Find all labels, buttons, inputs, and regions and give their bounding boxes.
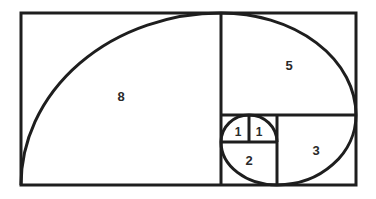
- fibonacci-diagram: 8 5 3 2 1 1: [0, 0, 376, 199]
- spiral-arc-1b: [249, 115, 277, 142]
- square-label-3: 3: [312, 143, 319, 158]
- square-label-1a: 1: [235, 125, 242, 139]
- square-label-5: 5: [285, 58, 292, 73]
- square-label-1b: 1: [256, 125, 263, 139]
- square-label-8: 8: [117, 89, 124, 104]
- outer-rectangle: [21, 13, 356, 185]
- square-label-2: 2: [245, 153, 252, 168]
